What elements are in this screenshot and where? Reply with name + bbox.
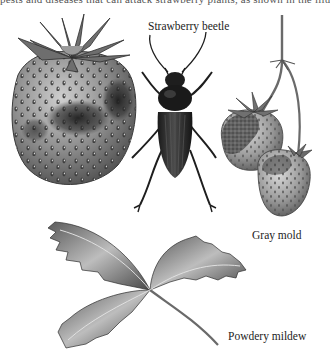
gray-mold-strawberries-illustration <box>221 15 312 216</box>
illustration-artwork <box>0 0 330 353</box>
label-strawberry-beetle: Strawberry beetle <box>148 20 229 33</box>
label-gray-mold: Gray mold <box>252 229 302 242</box>
strawberry-beetle-illustration <box>132 32 216 212</box>
label-powdery-mildew: Powdery mildew <box>228 330 306 343</box>
illustration-figure: pests and diseases that can attack straw… <box>0 0 330 353</box>
large-strawberry-illustration <box>12 14 136 185</box>
powdery-mildew-leaf-illustration <box>48 222 246 348</box>
